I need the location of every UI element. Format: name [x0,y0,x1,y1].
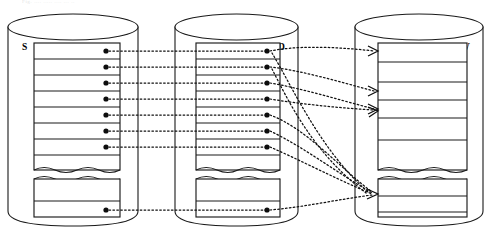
s-row-dot [103,112,108,117]
s-row-dot [103,96,108,101]
cylinder-d-top-ellipse [175,14,298,40]
s-row-dot [103,64,108,69]
cylinder-s: S [8,14,138,226]
diagram-canvas: Fig. .... ..... .... ... .. S [0,0,492,245]
cylinder-v-lower-table [378,179,467,217]
cylinder-v: V [355,14,483,226]
s-row-dot [103,48,108,53]
cylinder-s-top-ellipse [8,14,138,40]
s-row-dot [103,80,108,85]
s-row-dot [103,128,108,133]
database-mapping-diagram: S [0,0,492,245]
s-row-dot [103,207,108,212]
cylinder-s-label: S [22,42,27,52]
cylinder-d: D [175,14,298,226]
cylinder-v-top-ellipse [355,14,483,40]
s-row-dot [103,144,108,149]
